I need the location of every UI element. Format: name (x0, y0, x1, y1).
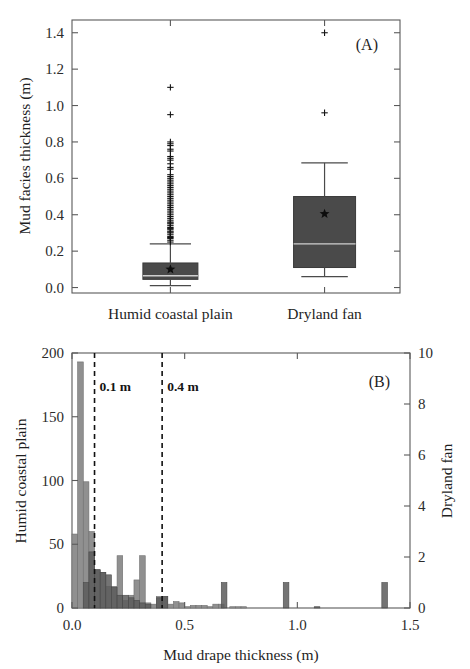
panel-b-bar-dryland (95, 570, 101, 608)
panel-b-bar-humid (196, 605, 202, 608)
panel-a-label: (A) (356, 36, 378, 54)
panel-a-y-tick-label: 0.8 (45, 134, 64, 150)
panel-b-y-tick-label-left: 150 (42, 409, 65, 425)
panel-b-bar-humid (230, 607, 236, 608)
panel-b-bar-dryland (221, 583, 227, 609)
panel-a-y-tick-label: 0.4 (45, 207, 64, 223)
panel-b-bar-humid (241, 607, 247, 608)
panel-a-category-label-2: Dryland fan (287, 305, 362, 322)
panel-a-y-tick-label: 1.4 (45, 25, 64, 41)
panel-b-y-tick-label-right: 0 (418, 600, 426, 616)
panel-b-bar-dryland (89, 552, 95, 608)
panel-b-bar-dryland (145, 604, 151, 608)
panel-b-x-tick-label: 1.0 (288, 617, 307, 633)
panel-b-bar-dryland (140, 603, 146, 608)
panel-b-y-tick-label-left: 100 (42, 473, 65, 489)
panel-b-x-tick-label: 0.0 (63, 617, 82, 633)
panel-b-bar-humid (140, 556, 146, 608)
panel-b-y-tick-label-right: 10 (418, 345, 433, 361)
panel-b-bar-humid (78, 362, 84, 608)
panel-a-box-2 (294, 197, 356, 268)
panel-b-y-tick-label-right: 8 (418, 396, 426, 412)
panel-b-bar-dryland (283, 583, 289, 609)
panel-b-bar-dryland (100, 572, 106, 608)
panel-b-bar-humid (151, 604, 157, 608)
panel-b-bar-humid (72, 534, 78, 608)
panel-a-boxplot: 0.00.20.40.60.81.01.21.4 Humid coastal p… (0, 0, 470, 335)
panel-a-y-tick-labels: 0.00.20.40.60.81.01.21.4 (45, 25, 64, 296)
panel-b-x-axis-title: Mud drape thickness (m) (163, 646, 318, 664)
panel-b-bar-dryland (117, 595, 123, 608)
panel-b-threshold-label-1: 0.1 m (100, 379, 132, 394)
panel-b-bar-dryland (314, 607, 320, 608)
panel-b-bar-humid (168, 604, 174, 608)
panel-b-y-ticks-right: 0246810 (404, 345, 433, 616)
panel-a-y-tick-label: 0.6 (45, 170, 64, 186)
panel-b-bar-humid (207, 607, 213, 608)
panel-b-bar-dryland (83, 583, 89, 609)
panel-b-bar-dryland (157, 598, 163, 608)
panel-a-svg: 0.00.20.40.60.81.01.21.4 Humid coastal p… (0, 0, 470, 335)
panel-b-bar-dryland (128, 598, 134, 608)
panel-a-y-tick-label: 1.0 (45, 98, 64, 114)
panel-b-y-tick-label-left: 50 (49, 536, 64, 552)
panel-b-y-axis-title-left: Humid coastal plain (12, 418, 29, 543)
panel-a-boxes (143, 30, 356, 286)
panel-b-y-tick-label-right: 6 (418, 447, 426, 463)
panel-b-bar-humid (202, 605, 208, 608)
panel-b-bar-dryland (106, 575, 112, 608)
panel-b-bar-humid (213, 604, 219, 608)
panel-a-category-labels: Humid coastal plainDryland fan (108, 305, 362, 322)
panel-b-bar-dryland (111, 588, 117, 608)
panel-a-y-tick-label: 0.0 (45, 280, 64, 296)
panel-b-y-tick-label-right: 2 (418, 549, 426, 565)
panel-b-bars-dryland (83, 552, 387, 608)
panel-b-svg: 0.1 m0.4 m 050100150200 0246810 0.00.51.… (0, 335, 470, 669)
panel-b-threshold-labels: 0.1 m0.4 m (100, 379, 200, 394)
panel-b-bar-dryland (162, 597, 168, 608)
panel-b-x-tick-label: 1.5 (401, 617, 420, 633)
panel-b-bar-dryland (382, 583, 388, 609)
panel-b-bar-humid (185, 607, 191, 608)
panel-a-y-tick-label: 0.2 (45, 243, 64, 259)
panel-b-bar-dryland (123, 595, 129, 608)
panel-b-y-tick-label-left: 200 (42, 345, 65, 361)
panel-b-y-tick-label-left: 0 (57, 600, 65, 616)
panel-b-histogram: 0.1 m0.4 m 050100150200 0246810 0.00.51.… (0, 335, 470, 669)
panel-b-threshold-label-2: 0.4 m (167, 379, 199, 394)
panel-a-category-label-1: Humid coastal plain (108, 305, 233, 322)
panel-b-label: (B) (369, 373, 390, 391)
panel-b-bar-humid (235, 607, 241, 608)
panel-b-bar-humid (179, 603, 185, 608)
panel-b-bar-dryland (134, 600, 140, 608)
panel-a-y-axis-title: Mud facies thickness (m) (16, 77, 34, 234)
panel-b-bar-humid (173, 602, 179, 608)
panel-b-y-axis-title-right: Dryland fan (438, 444, 455, 519)
panel-b-x-tick-label: 0.5 (175, 617, 194, 633)
panel-b-bar-humid (190, 605, 196, 608)
panel-a-y-tick-label: 1.2 (45, 61, 64, 77)
figure-root: 0.00.20.40.60.81.01.21.4 Humid coastal p… (0, 0, 470, 669)
panel-b-y-tick-label-right: 4 (418, 498, 426, 514)
